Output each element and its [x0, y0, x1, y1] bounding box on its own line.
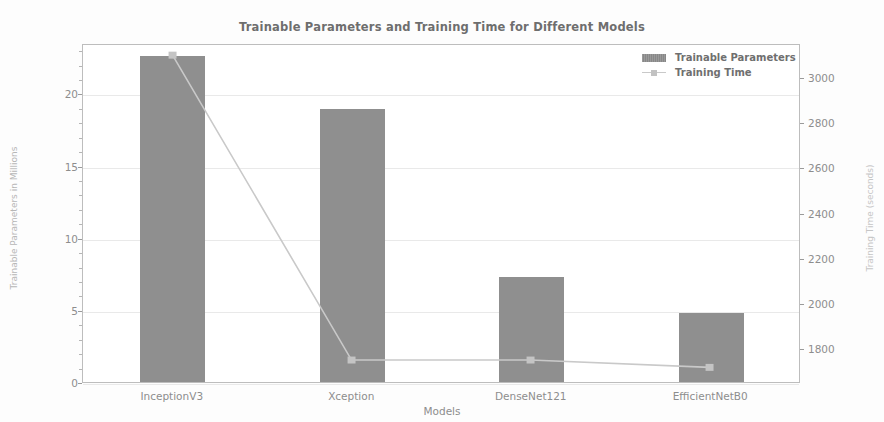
y-axis-left-minor-tick	[79, 296, 82, 297]
y-axis-left-minor-tick	[79, 123, 82, 124]
y-axis-left-tick-mark	[78, 311, 82, 312]
legend-line-swatch-icon	[642, 69, 666, 77]
training-time-line	[173, 55, 710, 367]
y-axis-right-tick-mark	[800, 304, 804, 305]
y-axis-left-minor-tick	[79, 195, 82, 196]
y-axis-right-tick: 2800	[808, 117, 835, 129]
y-axis-right-tick: 2000	[808, 298, 835, 310]
y-axis-left-tick-mark	[78, 383, 82, 384]
y-axis-right-tick: 2200	[808, 253, 835, 265]
y-axis-left-tick: 15	[65, 161, 78, 173]
y-axis-right-tick: 3000	[808, 72, 835, 84]
y-axis-right-label: Training Time (seconds)	[865, 38, 875, 398]
gridline	[83, 384, 799, 385]
y-axis-left-tick: 5	[71, 305, 78, 317]
y-axis-left-tick: 20	[65, 88, 78, 100]
y-axis-left-tick-mark	[78, 167, 82, 168]
legend-item-label: Training Time	[675, 67, 752, 78]
y-axis-left-minor-tick	[79, 282, 82, 283]
legend-item-trainable-parameters: Trainable Parameters	[642, 50, 796, 65]
bar-xception	[320, 109, 385, 382]
legend-item-label: Trainable Parameters	[675, 52, 796, 63]
bar-densenet121	[499, 277, 564, 382]
y-axis-left-minor-tick	[79, 152, 82, 153]
chart-title: Trainable Parameters and Training Time f…	[0, 20, 884, 34]
y-axis-left-minor-tick	[79, 181, 82, 182]
y-axis-left-tick-mark	[78, 94, 82, 95]
legend-bar-swatch-icon	[642, 54, 666, 62]
x-axis-tick-densenet121: DenseNet121	[495, 390, 567, 402]
y-axis-right-tick-mark	[800, 259, 804, 260]
y-axis-left-minor-tick	[79, 268, 82, 269]
y-axis-left-minor-tick	[79, 354, 82, 355]
y-axis-right-tick: 2400	[808, 208, 835, 220]
y-axis-left-minor-tick	[79, 80, 82, 81]
x-axis-label: Models	[0, 405, 884, 417]
y-axis-right-tick: 1800	[808, 343, 835, 355]
legend-item-training-time: Training Time	[642, 65, 796, 80]
y-axis-left-minor-tick	[79, 109, 82, 110]
y-axis-left-label: Trainable Parameters in Millions	[9, 38, 19, 398]
y-axis-left-minor-tick	[79, 224, 82, 225]
bar-efficientnetb0	[679, 313, 744, 382]
y-axis-left-tick: 10	[65, 233, 78, 245]
y-axis-left-minor-tick	[79, 210, 82, 211]
bar-inceptionv3	[140, 56, 205, 382]
y-axis-right-tick-mark	[800, 349, 804, 350]
y-axis-left-tick-mark	[78, 239, 82, 240]
y-axis-left-minor-tick	[79, 138, 82, 139]
y-axis-left-minor-tick	[79, 66, 82, 67]
chart-legend: Trainable Parameters Training Time	[636, 47, 802, 84]
y-axis-left-tick: 0	[71, 377, 78, 389]
chart-figure: Trainable Parameters and Training Time f…	[0, 0, 884, 422]
y-axis-right-tick-mark	[800, 168, 804, 169]
y-axis-right-tick-mark	[800, 214, 804, 215]
y-axis-left-minor-tick	[79, 51, 82, 52]
y-axis-left-minor-tick	[79, 325, 82, 326]
x-axis-tick-xception: Xception	[328, 390, 374, 402]
y-axis-left-minor-tick	[79, 369, 82, 370]
y-axis-left-minor-tick	[79, 253, 82, 254]
y-axis-right-tick-mark	[800, 123, 804, 124]
x-axis-tick-inceptionv3: InceptionV3	[140, 390, 203, 402]
y-axis-right-tick: 2600	[808, 162, 835, 174]
x-axis-tick-efficientnetb0: EfficientNetB0	[673, 390, 748, 402]
y-axis-left-minor-tick	[79, 340, 82, 341]
plot-area	[82, 44, 800, 383]
